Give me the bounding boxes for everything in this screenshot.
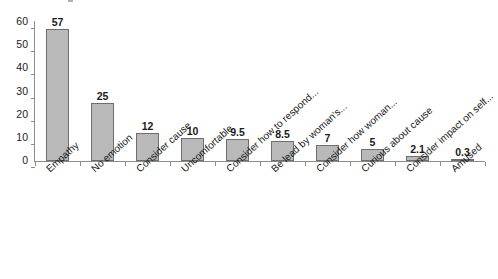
x-axis-tick-mark [35,162,36,166]
bar[interactable]: 12 [136,133,159,161]
x-axis-tick-mark [260,162,261,166]
y-axis-tick-label: 0 [22,154,28,166]
y-axis-tick: 10 [0,138,35,150]
bar[interactable]: 5 [361,149,384,161]
bar-value-label: 10 [187,125,199,137]
bar-value-label: 5 [370,136,376,148]
y-axis-tick-label: 20 [16,108,28,120]
x-axis-tick-mark [485,162,486,166]
y-axis-tick-label: 40 [16,61,28,73]
y-axis-tick: 40 [0,68,35,80]
bar-chart: 6050403020100 572512109.58.5752.10.3 Emp… [0,0,498,279]
bar[interactable]: 57 [46,29,69,161]
x-axis-tick-mark [440,162,441,166]
x-axis-tick-mark [305,162,306,166]
y-axis: 6050403020100 [0,0,35,279]
bar-value-label: 25 [97,90,109,102]
y-axis-tick-label: 10 [16,131,28,143]
bar-value-label: 8.5 [275,128,290,140]
bar[interactable]: 9.5 [226,139,249,161]
x-axis-tick-mark [395,162,396,166]
y-axis-tick: 50 [0,45,35,57]
x-axis-tick-mark [80,162,81,166]
bar[interactable]: 8.5 [271,141,294,161]
bar-value-label: 2.1 [410,143,425,155]
x-axis-tick-mark [170,162,171,166]
y-axis-tick: 30 [0,92,35,104]
bar[interactable]: 0.3 [451,159,474,161]
bar[interactable]: 25 [91,103,114,161]
x-axis-tick-mark [350,162,351,166]
bar-value-label: 0.3 [455,146,470,158]
y-axis-tick-label: 60 [16,15,28,27]
y-axis-tick: 60 [0,22,35,34]
cropped-title-artifact [68,0,73,2]
x-axis-tick-mark [125,162,126,166]
bar-value-label: 12 [142,120,154,132]
bar[interactable]: 10 [181,138,204,161]
y-axis-tick: 0 [0,161,35,173]
y-axis-tick: 20 [0,115,35,127]
bar-value-label: 7 [325,132,331,144]
y-axis-tick-label: 30 [16,85,28,97]
y-axis-tick-mark [31,167,35,168]
bar-value-label: 9.5 [230,126,245,138]
bar[interactable]: 7 [316,145,339,161]
x-axis-tick-mark [215,162,216,166]
bar-value-label: 57 [52,16,64,28]
bar[interactable]: 2.1 [406,156,429,161]
plot-area: 572512109.58.5752.10.3 [35,22,485,161]
y-axis-tick-label: 50 [16,38,28,50]
